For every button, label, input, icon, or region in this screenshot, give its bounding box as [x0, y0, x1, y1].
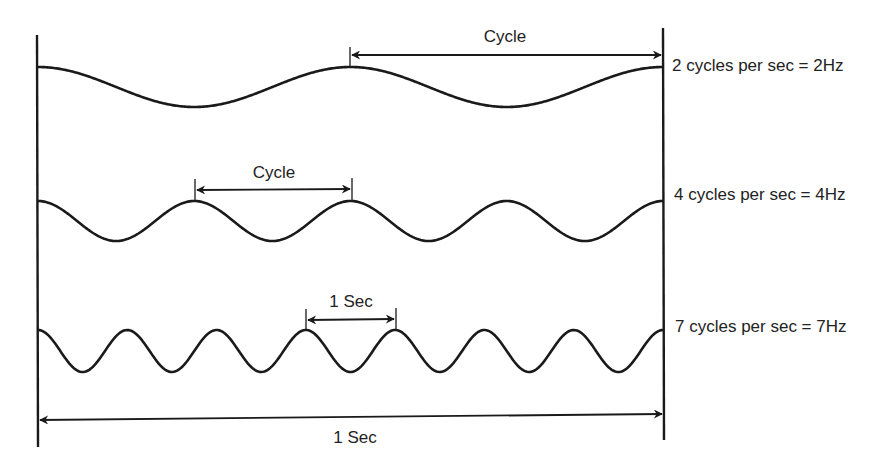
left-boundary-line: [37, 35, 38, 447]
cycle-label: Cycle: [484, 27, 527, 46]
right-boundary-line: [663, 28, 664, 440]
wave-4hz: [38, 201, 663, 241]
timeline-arrow: [40, 414, 662, 420]
wave-2hz-group: Cycle 2 cycles per sec = 2Hz: [38, 27, 844, 107]
wave-4hz-group: Cycle 4 cycles per sec = 4Hz: [38, 163, 846, 241]
one-sec-arrow: [308, 319, 394, 320]
frequency-label-4hz: 4 cycles per sec = 4Hz: [674, 185, 846, 204]
timeline-group: 1 Sec: [40, 414, 662, 447]
frequency-label-7hz: 7 cycles per sec = 7Hz: [675, 317, 847, 336]
wave-2hz: [38, 67, 663, 107]
cycle-arrow: [197, 189, 350, 190]
cycle-label: Cycle: [253, 163, 296, 182]
timeline-label: 1 Sec: [333, 428, 377, 447]
one-sec-label: 1 Sec: [329, 292, 373, 311]
frequency-label-2hz: 2 cycles per sec = 2Hz: [672, 56, 844, 75]
frequency-diagram: Cycle 2 cycles per sec = 2Hz Cycle 4 cyc…: [0, 0, 882, 471]
wave-7hz: [38, 330, 663, 372]
wave-7hz-group: 1 Sec 7 cycles per sec = 7Hz: [38, 292, 847, 372]
